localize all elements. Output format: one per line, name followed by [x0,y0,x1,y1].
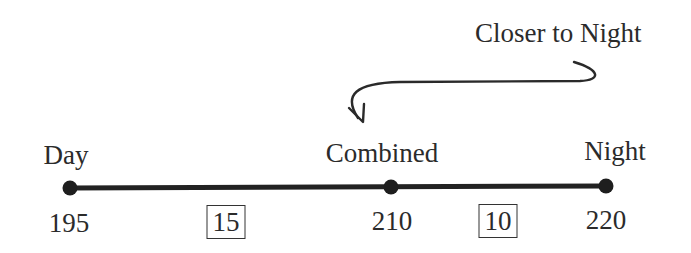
point-dot-day [63,181,78,196]
difference-box-day-combined: 15 [207,205,246,239]
point-value-night: 220 [586,207,627,234]
number-line [70,186,606,188]
point-dot-combined [384,180,399,195]
annotation-arrow [352,62,595,118]
point-dot-night [599,179,614,194]
point-label-day: Day [44,142,89,169]
point-label-combined: Combined [326,140,439,167]
point-value-combined: 210 [372,208,413,235]
point-value-day: 195 [49,210,90,237]
point-label-night: Night [584,138,646,165]
number-line-diagram: Closer to Night Day Combined Night 195 2… [0,0,691,253]
arrow-head-icon [349,104,364,122]
difference-box-combined-night: 10 [479,204,518,238]
annotation-text: Closer to Night [475,20,642,47]
